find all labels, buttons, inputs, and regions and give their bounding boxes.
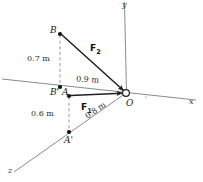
- axis-y-line: [125, 2, 127, 93]
- force-diagram-canvas: [0, 0, 203, 182]
- stray-dot: [145, 96, 146, 97]
- point-label-A: A: [62, 88, 69, 97]
- axis-label-z: z: [8, 167, 12, 175]
- point-marker-O: [123, 90, 130, 97]
- point-label-Bp: B': [50, 88, 59, 97]
- point-label-O: O: [126, 99, 133, 108]
- force-label-f2: F2: [90, 44, 101, 55]
- point-marker-B: [58, 32, 62, 36]
- force-label-f2-sub: 2: [96, 48, 101, 56]
- dimension-label-b-height: 0.7 m: [27, 55, 50, 63]
- dimension-label-a-height: 0.6 m: [31, 110, 54, 118]
- axis-label-y: y: [122, 1, 127, 9]
- point-marker-Ap: [67, 130, 71, 134]
- dimension-label-bp-origin: 0.9 m: [76, 75, 99, 84]
- point-label-B: B: [50, 26, 57, 35]
- point-label-Ap: A': [64, 136, 73, 145]
- force-vector-f1: [71, 93, 123, 95]
- axis-label-x: x: [189, 98, 194, 106]
- axis-x-line: [2, 79, 196, 100]
